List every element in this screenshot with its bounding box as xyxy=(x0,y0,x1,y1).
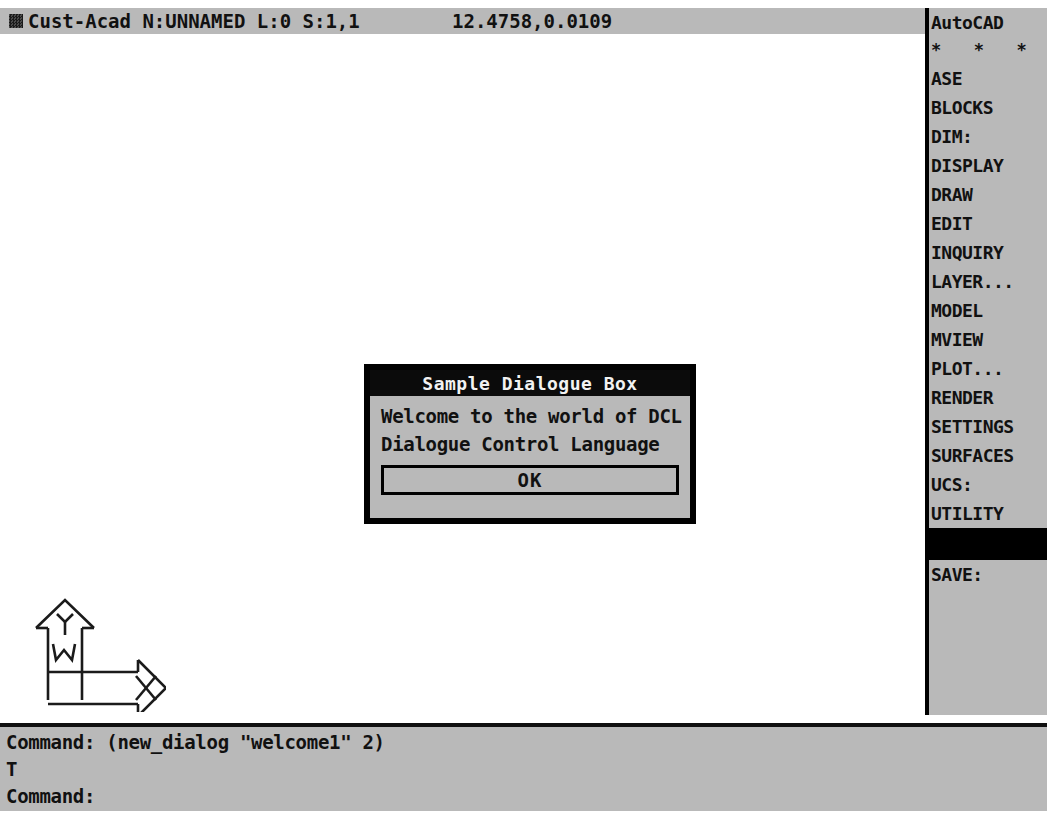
dialog-message-line-1: Welcome to the world of DCL xyxy=(381,402,679,430)
side-menu-item-surfaces[interactable]: SURFACES xyxy=(929,441,1047,470)
status-coordinates: 12.4758,0.0109 xyxy=(452,8,612,34)
side-menu-item-draw[interactable]: DRAW xyxy=(929,180,1047,209)
side-menu-highlighted-slot[interactable] xyxy=(929,528,1047,560)
side-menu-item-settings[interactable]: SETTINGS xyxy=(929,412,1047,441)
status-bar: Cust-Acad N:UNNAMED L:0 S:1,1 12.4758,0.… xyxy=(0,8,1047,34)
side-menu-item-inquiry[interactable]: INQUIRY xyxy=(929,238,1047,267)
side-menu-item-edit[interactable]: EDIT xyxy=(929,209,1047,238)
autocad-screen: Cust-Acad N:UNNAMED L:0 S:1,1 12.4758,0.… xyxy=(0,0,1047,823)
side-menu-item-display[interactable]: DISPLAY xyxy=(929,151,1047,180)
side-menu-item-layer[interactable]: LAYER... xyxy=(929,267,1047,296)
side-menu-item-blocks[interactable]: BLOCKS xyxy=(929,93,1047,122)
status-bar-text: Cust-Acad N:UNNAMED L:0 S:1,1 xyxy=(28,11,360,31)
command-prompt-area[interactable]: Command: (new_dialog "welcome1" 2)TComma… xyxy=(0,723,1047,811)
drawing-canvas[interactable]: Sample Dialogue Box Welcome to the world… xyxy=(0,34,920,723)
dialog-body: Welcome to the world of DCL Dialogue Con… xyxy=(370,396,690,458)
ucs-world-icon xyxy=(26,592,166,712)
side-screen-menu[interactable]: AutoCAD* * * *ASEBLOCKSDIM:DISPLAYDRAWED… xyxy=(925,8,1047,715)
side-menu-item-ucs[interactable]: UCS: xyxy=(929,470,1047,499)
side-menu-item-save[interactable]: SAVE: xyxy=(929,560,1047,589)
command-line-1: Command: (new_dialog "welcome1" 2) xyxy=(6,729,1047,756)
dialog-title-bar: Sample Dialogue Box xyxy=(370,370,690,396)
command-line-3: Command: xyxy=(6,783,1047,810)
side-menu-item-utility[interactable]: UTILITY xyxy=(929,499,1047,528)
ok-button[interactable]: OK xyxy=(381,465,679,495)
side-menu-item-plot[interactable]: PLOT... xyxy=(929,354,1047,383)
side-menu-separator-stars[interactable]: * * * * xyxy=(929,37,1047,64)
side-menu-item-model[interactable]: MODEL xyxy=(929,296,1047,325)
side-menu-item-ase[interactable]: ASE xyxy=(929,64,1047,93)
side-menu-item-mview[interactable]: MVIEW xyxy=(929,325,1047,354)
sample-dialogue-box: Sample Dialogue Box Welcome to the world… xyxy=(364,364,696,524)
page-edge xyxy=(0,811,1047,823)
dialog-message-line-2: Dialogue Control Language xyxy=(381,430,679,458)
side-menu-title: AutoCAD xyxy=(929,8,1047,37)
side-menu-item-dim[interactable]: DIM: xyxy=(929,122,1047,151)
dither-square-icon xyxy=(9,14,23,28)
side-menu-item-render[interactable]: RENDER xyxy=(929,383,1047,412)
command-line-2: T xyxy=(6,756,1047,783)
